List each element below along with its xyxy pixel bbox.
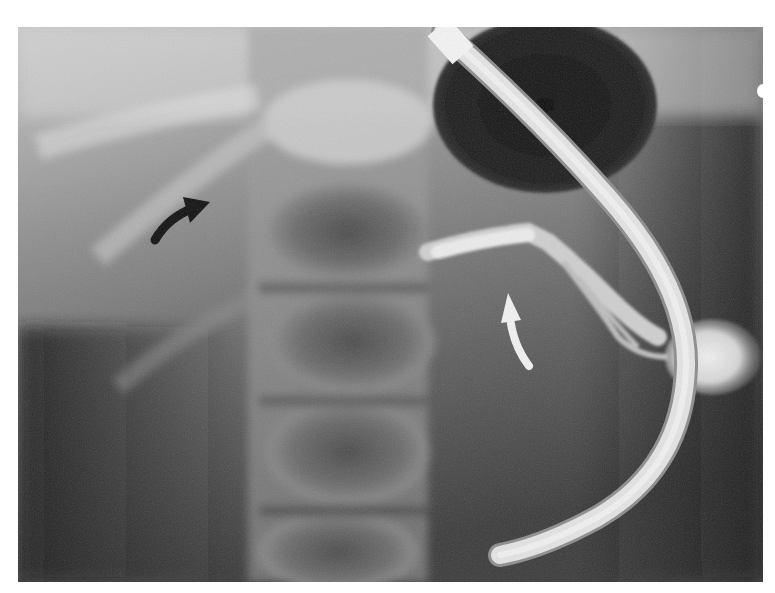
film-grain [18,27,763,582]
film-edge-notch [757,84,769,98]
radiograph-canvas [18,27,763,582]
radiograph-image [18,27,763,582]
